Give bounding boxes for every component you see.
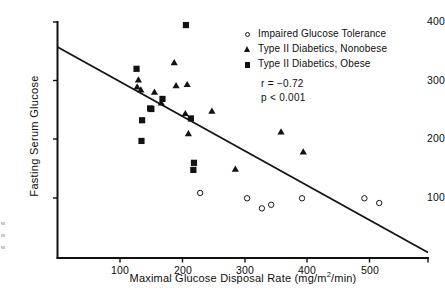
p-value: p < 0.001 (261, 92, 306, 106)
y-tick-label: 100 (411, 191, 445, 203)
data-point (208, 108, 215, 114)
y-tick-label: 400 (411, 15, 445, 27)
data-point (277, 128, 284, 134)
correlation-coefficient: r = −0.72 (261, 78, 306, 92)
data-point (197, 190, 202, 195)
data-point (183, 22, 189, 28)
scan-artifact (1, 246, 5, 249)
data-point (151, 89, 158, 95)
data-point (159, 96, 165, 102)
data-point (185, 130, 192, 136)
data-point (172, 82, 179, 88)
legend-item-label: Type II Diabetics, Obese (258, 58, 371, 69)
data-point (362, 196, 367, 201)
legend-item-impaired-glucose-tolerance: Impaired Glucose Tolerance (243, 27, 439, 42)
data-point (133, 66, 139, 72)
data-point (138, 138, 144, 144)
data-point (139, 117, 145, 123)
legend-item-label: Impaired Glucose Tolerance (258, 28, 386, 39)
data-point (244, 196, 249, 201)
filled-square-icon (243, 57, 256, 72)
y-tick-label: 200 (411, 132, 445, 144)
data-point (232, 165, 239, 171)
data-point (135, 76, 142, 82)
x-axis-title: Maximal Glucose Disposal Rate (mg/m2/min… (57, 272, 429, 284)
data-point (377, 200, 382, 205)
legend: Impaired Glucose Tolerance Type II Diabe… (243, 27, 439, 72)
data-point (300, 148, 307, 154)
data-point (184, 81, 191, 87)
open-circle-icon (243, 27, 256, 42)
legend-item-type-ii-diabetics-obese: Type II Diabetics, Obese (243, 57, 439, 72)
data-point (299, 196, 304, 201)
scatter-plot-figure: 400 300 200 100 100 200 300 400 500 Fast… (0, 0, 445, 295)
y-axis-title: Fasting Serum Glucose (28, 36, 40, 236)
data-point (148, 106, 154, 112)
data-point (188, 115, 194, 121)
scan-artifact (1, 234, 5, 237)
data-point (190, 167, 196, 173)
legend-item-label: Type II Diabetics, Nonobese (258, 43, 387, 54)
data-point (171, 59, 178, 65)
filled-triangle-icon (243, 42, 256, 57)
x-axis-title-tail: /min) (331, 272, 356, 284)
regression-line (58, 47, 429, 253)
data-point (259, 206, 264, 211)
y-tick-label: 300 (411, 74, 445, 86)
statistics-annotation: r = −0.72 p < 0.001 (261, 78, 306, 106)
legend-item-type-ii-diabetics-nonobese: Type II Diabetics, Nonobese (243, 42, 439, 57)
scan-artifact (1, 222, 5, 225)
x-axis-title-main: Maximal Glucose Disposal Rate (mg/m (130, 272, 327, 284)
data-point (182, 110, 189, 116)
data-point (191, 160, 197, 166)
data-point (268, 202, 273, 207)
